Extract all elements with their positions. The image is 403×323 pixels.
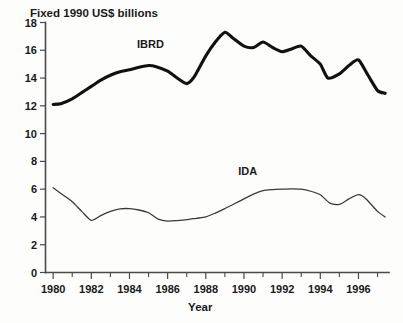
- y-tick-label: 6: [31, 183, 37, 195]
- x-tick-label: 1994: [308, 283, 333, 295]
- y-tick-label: 10: [25, 128, 37, 140]
- x-tick-label: 1996: [346, 283, 370, 295]
- y-tick-label: 2: [31, 239, 37, 251]
- axes-group: [46, 23, 390, 273]
- y-tick-label: 8: [31, 155, 37, 167]
- series-line-ida: [53, 188, 385, 221]
- x-axis-ticks: [53, 273, 377, 280]
- x-axis-title: Year: [188, 301, 213, 313]
- y-tick-label: 12: [25, 100, 37, 112]
- y-tick-label: 16: [25, 44, 37, 56]
- x-tick-label: 1982: [79, 283, 103, 295]
- y-tick-label: 4: [31, 211, 38, 223]
- x-tick-label: 1980: [41, 283, 65, 295]
- y-tick-label: 14: [25, 72, 38, 84]
- x-axis-tick-labels: 198019821984198619881990199219941996: [41, 283, 371, 295]
- x-tick-label: 1984: [117, 283, 142, 295]
- series-label-ida: IDA: [238, 165, 257, 177]
- x-tick-label: 1986: [155, 283, 179, 295]
- x-tick-label: 1988: [194, 283, 218, 295]
- x-tick-label: 1990: [232, 283, 256, 295]
- y-axis-tick-labels: 024681012141618: [25, 17, 38, 279]
- series-line-ibrd: [53, 32, 385, 104]
- line-chart: 024681012141618 198019821984198619881990…: [0, 0, 403, 323]
- chart-container: 024681012141618 198019821984198619881990…: [0, 0, 403, 323]
- y-axis-ticks: [40, 23, 46, 273]
- series-label-ibrd: IBRD: [137, 38, 164, 50]
- y-tick-label: 0: [31, 267, 37, 279]
- x-tick-label: 1992: [270, 283, 294, 295]
- chart-title: Fixed 1990 US$ billions: [30, 7, 158, 19]
